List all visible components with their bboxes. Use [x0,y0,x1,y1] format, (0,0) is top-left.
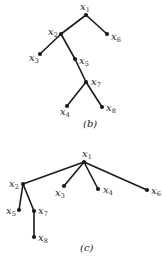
tree-diagram-b: x1x2x3x4x5x6x7x8(b) [29,1,121,129]
caption-b: (b) [83,118,97,129]
node-x1 [82,160,86,164]
edge-x2-x5 [61,34,75,59]
node-x6 [105,32,109,36]
node-x2 [59,32,63,36]
node-label-x4: x4 [103,184,113,197]
node-label-x2: x2 [9,178,19,191]
caption-c: (c) [80,242,94,253]
node-label-x1: x1 [80,1,90,14]
node-label-x3: x3 [29,52,39,65]
node-label-x8: x8 [106,102,116,115]
node-label-x6: x6 [111,31,121,44]
node-x8 [100,105,104,109]
edge-x1-x6 [86,15,107,34]
node-label-x8: x8 [38,232,48,245]
edge-x1-x4 [84,162,98,189]
edge-x2-x5 [19,184,23,210]
edge-x1-x6 [84,162,147,190]
edge-x7-x4 [67,82,86,106]
node-x8 [32,235,36,239]
node-label-x5: x5 [79,55,89,68]
node-x6 [145,188,149,192]
node-x5 [73,57,77,61]
edge-x1-x2 [61,15,86,34]
node-label-x4: x4 [60,106,70,119]
node-label-x6: x6 [151,185,161,198]
node-x7 [84,80,88,84]
node-label-x1: x1 [82,148,92,161]
node-x5 [17,208,21,212]
edge-x2-x3 [40,34,61,54]
node-label-x3: x3 [55,187,65,200]
node-label-x7: x7 [91,76,101,89]
node-x7 [32,209,36,213]
node-label-x2: x2 [48,26,58,39]
edge-x2-x7 [23,184,34,211]
tree-diagram-c: x1x2x3x4x5x6x7x8(c) [6,148,161,253]
node-x2 [21,182,25,186]
node-x3 [62,184,66,188]
node-label-x7: x7 [38,205,48,218]
node-label-x5: x5 [6,205,16,218]
node-x3 [38,52,42,56]
tree-diagrams: x1x2x3x4x5x6x7x8(b) x1x2x3x4x5x6x7x8(c) [0,0,162,259]
node-x4 [96,187,100,191]
